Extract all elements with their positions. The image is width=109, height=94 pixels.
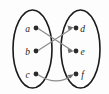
vertex-label-a: a <box>25 24 30 34</box>
edges-group <box>39 26 74 81</box>
mapping-diagram-figure: a b c d e f <box>0 0 109 94</box>
vertex-dot-c <box>34 72 39 77</box>
vertex-dot-d <box>74 26 79 31</box>
diagram-canvas: a b c d e f <box>0 0 109 94</box>
vertex-label-b: b <box>25 47 30 57</box>
vertex-label-f: f <box>81 70 85 80</box>
vertex-label-c: c <box>25 70 30 80</box>
vertex-dot-b <box>34 49 39 54</box>
vertex-label-e: e <box>80 47 84 57</box>
vertex-label-d: d <box>80 24 85 34</box>
ellipse-domain-set <box>13 10 52 88</box>
vertex-dot-a <box>34 26 39 31</box>
vertex-dot-e <box>74 49 79 54</box>
vertex-dot-f <box>74 72 79 77</box>
